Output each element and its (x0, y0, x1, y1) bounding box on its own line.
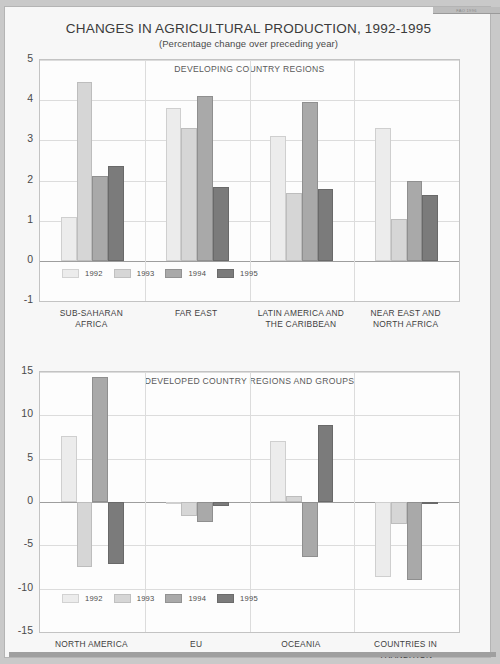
bar (197, 502, 213, 522)
legend-entry[interactable]: 1995 (217, 594, 258, 603)
bar (318, 189, 334, 261)
chart-legend: 1992199319941995 (62, 269, 269, 278)
legend-label: 1994 (188, 269, 206, 278)
bar (422, 195, 438, 261)
category-separator (250, 372, 251, 632)
chart-legend: 1992199319941995 (62, 594, 269, 603)
bar (270, 441, 286, 502)
page-bottom-rule (9, 652, 496, 657)
bar (197, 96, 213, 261)
bar (108, 166, 124, 260)
bar (77, 82, 93, 261)
y-axis-tick-label: 4 (5, 92, 33, 104)
legend-entry[interactable]: 1993 (114, 269, 155, 278)
bar (213, 502, 229, 506)
plot-area-bottom: DEVELOPED COUNTRY REGIONS AND GROUPS 199… (39, 371, 460, 633)
legend-entry[interactable]: 1994 (165, 269, 206, 278)
bar (181, 502, 197, 516)
y-axis-tick-label: -15 (5, 624, 33, 636)
category-separator (145, 372, 146, 632)
category-label-line2: NORTH AFRICA (353, 319, 458, 330)
x-axis-category-label: SUB-SAHARANAFRICA (39, 308, 144, 330)
legend-swatch (165, 594, 182, 603)
bar (375, 502, 391, 577)
y-axis-tick-label: 5 (5, 52, 33, 64)
gridline (40, 632, 459, 633)
x-axis-category-label: COUNTRIES INTRANSITION (353, 639, 458, 661)
bar (391, 219, 407, 261)
category-label-line1: FAR EAST (144, 308, 249, 319)
category-separator (250, 60, 251, 301)
y-axis-tick-label: -1 (5, 293, 33, 305)
category-label-line1: LATIN AMERICA AND (249, 308, 354, 319)
legend-label: 1993 (137, 594, 155, 603)
y-axis-tick-label: 2 (5, 173, 33, 185)
legend-label: 1995 (240, 594, 258, 603)
legend-label: 1992 (85, 269, 103, 278)
x-axis-category-label: FAR EAST (144, 308, 249, 319)
bar (92, 176, 108, 260)
x-axis-category-label: NORTH AMERICA (39, 639, 144, 650)
y-axis-tick-label: 0 (5, 253, 33, 265)
bar (108, 502, 124, 564)
bar (92, 377, 108, 502)
bar (302, 502, 318, 557)
legend-entry[interactable]: 1992 (62, 594, 103, 603)
legend-entry[interactable]: 1994 (165, 594, 206, 603)
bar (77, 502, 93, 567)
bar (407, 181, 423, 261)
legend-entry[interactable]: 1995 (217, 269, 258, 278)
category-label-line1: COUNTRIES IN (353, 639, 458, 650)
figure-title: CHANGES IN AGRICULTURAL PRODUCTION, 1992… (5, 21, 492, 36)
legend-swatch (114, 594, 131, 603)
legend-swatch (62, 594, 79, 603)
category-label-line2: AFRICA (39, 319, 144, 330)
plot-area-top: DEVELOPING COUNTRY REGIONS 1992199319941… (39, 59, 460, 302)
bar (213, 187, 229, 261)
legend-entry[interactable]: 1992 (62, 269, 103, 278)
y-axis-tick-label: 0 (5, 494, 33, 506)
figure-sheet: FAO 1996 CHANGES IN AGRICULTURAL PRODUCT… (4, 6, 491, 658)
bar (375, 128, 391, 261)
chart-developing-regions: DEVELOPING COUNTRY REGIONS 1992199319941… (5, 53, 492, 343)
x-axis-category-label: LATIN AMERICA ANDTHE CARIBBEAN (249, 308, 354, 330)
y-axis-tick-label: 5 (5, 451, 33, 463)
gridline (40, 301, 459, 302)
bar (391, 502, 407, 524)
bar (302, 102, 318, 261)
x-axis-category-label: EU (144, 639, 249, 650)
category-label-line1: NORTH AMERICA (39, 639, 144, 650)
legend-label: 1995 (240, 269, 258, 278)
category-separator (354, 60, 355, 301)
category-label-line2: THE CARIBBEAN (249, 319, 354, 330)
bar (286, 496, 302, 502)
bar (270, 136, 286, 261)
bar (166, 502, 182, 504)
bar (61, 217, 77, 261)
category-label-line1: NEAR EAST AND (353, 308, 458, 319)
bar (407, 502, 423, 580)
legend-entry[interactable]: 1993 (114, 594, 155, 603)
bar (286, 193, 302, 261)
category-separator (354, 372, 355, 632)
category-label-line1: EU (144, 639, 249, 650)
y-axis-tick-label: 1 (5, 213, 33, 225)
y-axis-tick-label: 10 (5, 407, 33, 419)
legend-swatch (114, 269, 131, 278)
legend-label: 1992 (85, 594, 103, 603)
bar (422, 502, 438, 504)
y-axis-tick-label: 3 (5, 132, 33, 144)
legend-swatch (62, 269, 79, 278)
legend-swatch (217, 269, 234, 278)
x-axis-category-label: OCEANIA (249, 639, 354, 650)
category-separator (145, 60, 146, 301)
category-label-line1: OCEANIA (249, 639, 354, 650)
bar (181, 128, 197, 261)
category-label-line1: SUB-SAHARAN (39, 308, 144, 319)
x-axis-category-label: NEAR EAST ANDNORTH AFRICA (353, 308, 458, 330)
chart-developed-regions: DEVELOPED COUNTRY REGIONS AND GROUPS 199… (5, 367, 492, 657)
y-axis-tick-label: -5 (5, 537, 33, 549)
legend-swatch (217, 594, 234, 603)
bar (166, 108, 182, 261)
